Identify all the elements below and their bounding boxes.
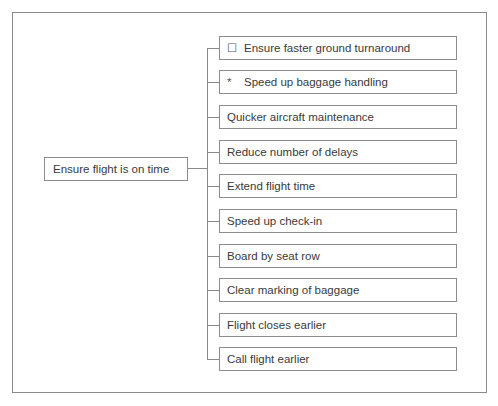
branch-connector: [207, 186, 219, 187]
child-node-label: Reduce number of delays: [227, 146, 358, 158]
child-node-label: Call flight earlier: [227, 353, 309, 365]
child-node: Reduce number of delays: [219, 140, 457, 164]
root-connector: [188, 168, 208, 169]
branch-connector: [207, 290, 219, 291]
branch-connector: [207, 325, 219, 326]
child-node: Extend flight time: [219, 174, 457, 198]
child-node: ☐Ensure faster ground turnaround: [219, 36, 457, 60]
child-node-label: Ensure faster ground turnaround: [244, 42, 410, 54]
child-node: *Speed up baggage handling: [219, 70, 457, 94]
child-node: Quicker aircraft maintenance: [219, 105, 457, 129]
branch-connector: [207, 117, 219, 118]
branch-connector: [207, 82, 219, 83]
root-node: Ensure flight is on time: [44, 157, 188, 181]
trunk-connector: [207, 48, 208, 360]
asterisk-icon: *: [227, 71, 244, 93]
child-node-label: Extend flight time: [227, 180, 315, 192]
branch-connector: [207, 152, 219, 153]
child-node: Board by seat row: [219, 244, 457, 268]
branch-connector: [207, 221, 219, 222]
child-node: Clear marking of baggage: [219, 278, 457, 302]
child-node: Speed up check-in: [219, 209, 457, 233]
branch-connector: [207, 359, 219, 360]
child-node: Flight closes earlier: [219, 313, 457, 337]
child-node-label: Board by seat row: [227, 250, 320, 262]
child-node-label: Speed up check-in: [227, 215, 322, 227]
branch-connector: [207, 48, 219, 49]
child-node-label: Clear marking of baggage: [227, 284, 359, 296]
child-node-label: Speed up baggage handling: [244, 76, 388, 88]
child-node: Call flight earlier: [219, 347, 457, 371]
root-node-label: Ensure flight is on time: [53, 163, 169, 175]
child-node-label: Flight closes earlier: [227, 319, 326, 331]
child-node-label: Quicker aircraft maintenance: [227, 111, 374, 123]
checkbox-icon: ☐: [227, 37, 244, 59]
branch-connector: [207, 256, 219, 257]
